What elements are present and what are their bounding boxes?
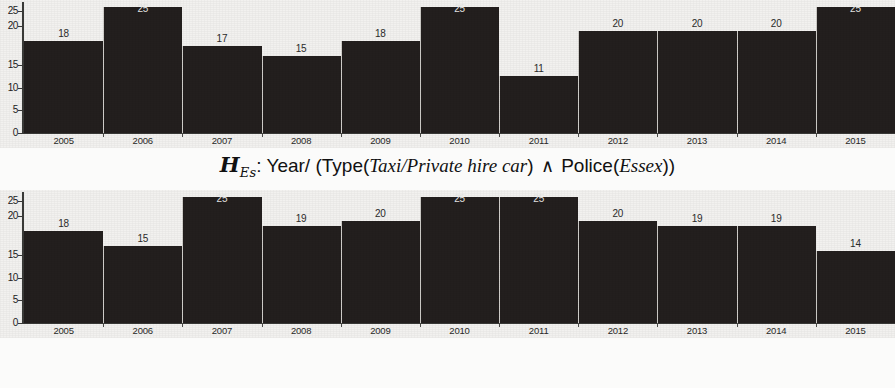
bar-2007[interactable] [182, 46, 261, 133]
figure-essex: 1825171518251120202025 0510152025 200520… [0, 0, 895, 148]
x-tick-label-2010: 2010 [420, 325, 499, 337]
y-tick-mark [18, 216, 23, 217]
bar-value-label: 25 [816, 3, 895, 14]
bar-value-label: 25 [103, 3, 182, 14]
bar-value-label: 11 [499, 63, 578, 74]
bar-2015[interactable] [816, 7, 895, 133]
x-tick-label-2005: 2005 [24, 135, 103, 147]
bar-2014[interactable] [737, 226, 816, 323]
x-tick-label-2013: 2013 [657, 135, 736, 147]
bar-value-label: 17 [182, 33, 261, 44]
bar-2008[interactable] [262, 226, 341, 323]
y-tick-label-15: 15 [0, 250, 18, 260]
y-tick-label-15: 15 [0, 60, 18, 70]
bar-group: 18 [341, 0, 420, 133]
y-tick-mark [18, 88, 23, 89]
bar-2008[interactable] [262, 56, 341, 133]
caption-symbol: H [220, 152, 240, 177]
bar-2005[interactable] [24, 231, 103, 323]
bar-value-label: 15 [262, 43, 341, 54]
bar-value-label: 20 [578, 208, 657, 219]
x-tick-mark [657, 133, 658, 137]
figure-humberside: 1815251920252520191914 0510152025 200520… [0, 190, 895, 338]
y-tick-label-10: 10 [0, 83, 18, 93]
caption-police: Police( [556, 155, 619, 176]
bar-2006[interactable] [103, 246, 182, 323]
caption-mid: ) [527, 155, 539, 176]
bar-group: 18 [24, 0, 103, 133]
y-tick-mark [18, 26, 23, 27]
bar-2010[interactable] [420, 197, 499, 323]
x-tick-mark [341, 323, 342, 327]
bar-chart-humberside: 1815251920252520191914 0510152025 200520… [0, 190, 895, 338]
bar-2014[interactable] [737, 31, 816, 133]
bar-group: 25 [420, 0, 499, 133]
x-tick-mark [816, 323, 817, 327]
x-tick-label-2012: 2012 [578, 325, 657, 337]
bar-value-label: 20 [578, 18, 657, 29]
figure-caption-essex: HEs: Year/ (Type(Taxi/Private hire car) … [0, 152, 895, 186]
bar-value-label: 19 [657, 213, 736, 224]
bar-value-label: 20 [737, 18, 816, 29]
caption-type-value: Taxi/Private hire car [369, 155, 527, 176]
x-axis-ticks: 2005200620072008200920102011201220132014… [24, 325, 895, 338]
x-tick-label-2015: 2015 [816, 325, 895, 337]
x-tick-label-2015: 2015 [816, 135, 895, 147]
y-tick-mark [18, 201, 23, 202]
x-tick-mark [420, 133, 421, 137]
bar-group: 18 [24, 190, 103, 323]
bar-2009[interactable] [341, 41, 420, 133]
x-tick-label-2005: 2005 [24, 325, 103, 337]
x-tick-mark [578, 133, 579, 137]
bar-2006[interactable] [103, 7, 182, 133]
caption-suffix: )) [662, 155, 675, 176]
y-tick-label-25: 25 [0, 6, 18, 16]
y-tick-mark [18, 300, 23, 301]
bar-2009[interactable] [341, 221, 420, 323]
y-tick-mark [18, 110, 23, 111]
bar-2011[interactable] [499, 76, 578, 133]
bar-group: 15 [103, 190, 182, 323]
x-tick-mark [737, 323, 738, 327]
bars-container: 1815251920252520191914 [24, 190, 895, 323]
bar-group: 25 [420, 190, 499, 323]
bar-2012[interactable] [578, 221, 657, 323]
x-tick-label-2014: 2014 [737, 135, 816, 147]
caption-colon: : [256, 155, 266, 176]
bar-value-label: 18 [341, 28, 420, 39]
y-tick-label-5: 5 [0, 295, 18, 305]
x-tick-mark [578, 323, 579, 327]
y-tick-mark [18, 65, 23, 66]
x-tick-mark [657, 323, 658, 327]
x-axis-line [22, 323, 895, 324]
bar-group: 25 [103, 0, 182, 133]
x-tick-label-2008: 2008 [262, 135, 341, 147]
bar-2010[interactable] [420, 7, 499, 133]
x-tick-label-2013: 2013 [657, 325, 736, 337]
bar-group: 11 [499, 0, 578, 133]
x-tick-mark [816, 133, 817, 137]
bar-2013[interactable] [657, 31, 736, 133]
bar-group: 20 [341, 190, 420, 323]
bar-2007[interactable] [182, 197, 261, 323]
bar-2005[interactable] [24, 41, 103, 133]
y-tick-label-25: 25 [0, 196, 18, 206]
bar-2012[interactable] [578, 31, 657, 133]
bar-group: 19 [737, 190, 816, 323]
x-tick-label-2006: 2006 [103, 325, 182, 337]
bar-group: 25 [182, 190, 261, 323]
x-tick-mark [182, 133, 183, 137]
bar-value-label: 25 [420, 193, 499, 204]
bars-container: 1825171518251120202025 [24, 0, 895, 133]
x-tick-mark [420, 323, 421, 327]
bar-value-label: 19 [737, 213, 816, 224]
x-tick-label-2009: 2009 [341, 135, 420, 147]
bar-value-label: 15 [103, 233, 182, 244]
bar-2013[interactable] [657, 226, 736, 323]
bar-2015[interactable] [816, 251, 895, 323]
y-tick-label-0: 0 [0, 318, 18, 328]
bar-value-label: 25 [499, 193, 578, 204]
bar-2011[interactable] [499, 197, 578, 323]
bar-value-label: 20 [341, 208, 420, 219]
y-tick-label-0: 0 [0, 128, 18, 138]
